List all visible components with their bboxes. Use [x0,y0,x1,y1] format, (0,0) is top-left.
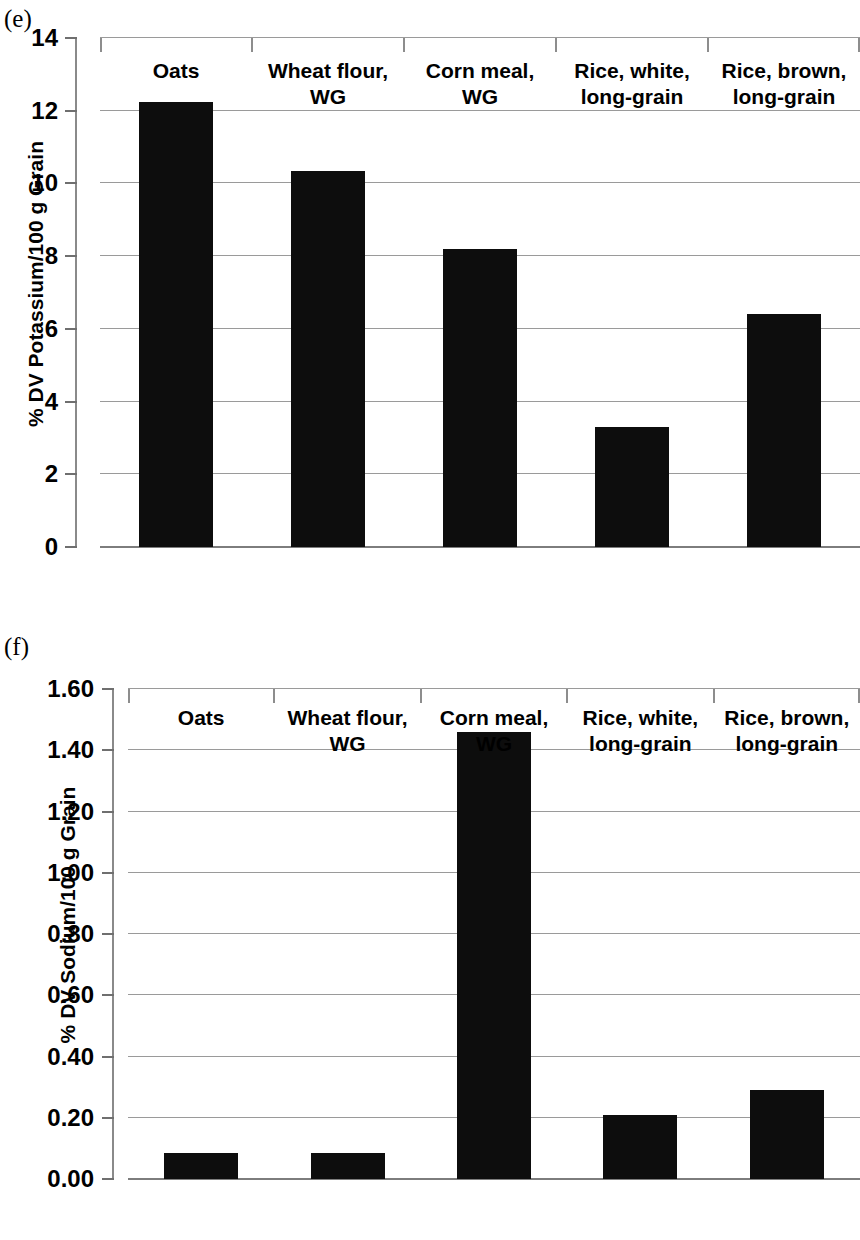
x-axis-separator [273,689,275,703]
y-tick-mark [102,994,114,996]
bar [311,1153,385,1179]
bar-cell [556,38,708,547]
x-axis-separator [713,689,715,703]
y-tick-mark [65,110,77,112]
x-axis-separator [566,689,568,703]
y-tick-mark [65,546,77,548]
x-axis-label: Rice, white, long-grain [567,705,713,756]
bar-cell [714,689,860,1179]
x-axis-label: Wheat flour, WG [274,705,420,756]
figure-panel-e: (e) % DV Potassium/100 g Grain 024681012… [0,0,860,630]
y-tick-label: 0.00 [10,1167,94,1191]
y-tick-mark [102,688,114,690]
bar [164,1153,238,1179]
y-tick-mark [102,1178,114,1180]
bar-cell [567,689,713,1179]
plot-area: 0.000.200.400.600.801.001.201.401.60 Oat… [128,689,860,1179]
y-tick-label: 4 [12,390,58,414]
y-tick-mark [65,328,77,330]
y-axis-spine [75,38,77,547]
bar [747,314,821,547]
y-tick-label: 10 [12,171,58,195]
bar [750,1090,824,1179]
x-axis-separator [403,38,405,52]
bar [443,249,517,547]
x-axis-separator [555,38,557,52]
bar-series [128,689,860,1179]
bar [603,1115,677,1179]
y-tick-label: 8 [12,244,58,268]
bar-cell [404,38,556,547]
x-axis-separator [251,38,253,52]
y-tick-label: 1.40 [10,738,94,762]
y-tick-label: 0.80 [10,922,94,946]
y-tick-mark [65,473,77,475]
potassium-bar-chart: % DV Potassium/100 g Grain 02468101214 O… [18,22,860,582]
y-tick-mark [102,749,114,751]
x-axis-separator [420,689,422,703]
y-tick-label: 14 [12,26,58,50]
y-tick-label: 0.20 [10,1106,94,1130]
bar-series [100,38,860,547]
plot-area: 02468101214 OatsWheat flour, WGCorn meal… [100,38,860,547]
bar [595,427,669,547]
y-tick-mark [65,37,77,39]
y-tick-label: 2 [12,462,58,486]
y-tick-label: 0.40 [10,1045,94,1069]
y-tick-label: 1.20 [10,800,94,824]
bar [457,732,531,1179]
x-axis-label: Oats [100,58,252,84]
y-tick-mark [102,1117,114,1119]
x-axis-label: Wheat flour, WG [252,58,404,109]
x-axis-separator [100,38,102,52]
bar [139,102,213,547]
panel-letter-f: (f) [4,634,29,659]
y-tick-mark [102,1056,114,1058]
y-tick-label: 12 [12,99,58,123]
bar-cell [100,38,252,547]
y-tick-mark [102,933,114,935]
y-tick-label: 1.60 [10,677,94,701]
y-tick-mark [65,182,77,184]
bar-cell [421,689,567,1179]
x-axis-label: Corn meal, WG [421,705,567,756]
y-tick-mark [102,811,114,813]
sodium-bar-chart: % DV Sodium/100 g Grain 0.000.200.400.60… [18,660,860,1220]
x-axis-label: Rice, brown, long-grain [714,705,860,756]
y-tick-label: 0.60 [10,983,94,1007]
x-axis-label: Corn meal, WG [404,58,556,109]
bar-cell [128,689,274,1179]
x-axis-separator [707,38,709,52]
bar [291,171,365,547]
bar-cell [274,689,420,1179]
y-tick-label: 6 [12,317,58,341]
x-axis-separator [128,689,130,703]
bar-cell [708,38,860,547]
figure-panel-f: (f) % DV Sodium/100 g Grain 0.000.200.40… [0,630,860,1240]
y-tick-label: 1.00 [10,861,94,885]
y-tick-mark [65,255,77,257]
y-tick-label: 0 [12,535,58,559]
x-axis-label: Oats [128,705,274,731]
x-axis-label: Rice, white, long-grain [556,58,708,109]
bar-cell [252,38,404,547]
x-axis-label: Rice, brown, long-grain [708,58,860,109]
y-tick-mark [65,401,77,403]
y-tick-mark [102,872,114,874]
